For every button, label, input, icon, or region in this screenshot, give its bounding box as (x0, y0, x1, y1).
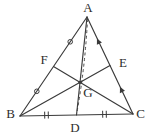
label-B: B (6, 106, 15, 121)
label-F: F (40, 52, 47, 67)
equal-mark-arrow (94, 37, 102, 45)
centroid-dot (78, 81, 81, 84)
geometry-figure: ABCDEFG (0, 0, 147, 137)
label-E: E (119, 55, 127, 70)
label-G: G (83, 85, 92, 100)
median-AD (77, 17, 88, 115)
equal-mark-arrow (117, 86, 125, 94)
label-A: A (83, 0, 93, 15)
label-D: D (70, 120, 79, 135)
triangle-medians-diagram: ABCDEFG (0, 0, 147, 137)
label-C: C (136, 106, 145, 121)
